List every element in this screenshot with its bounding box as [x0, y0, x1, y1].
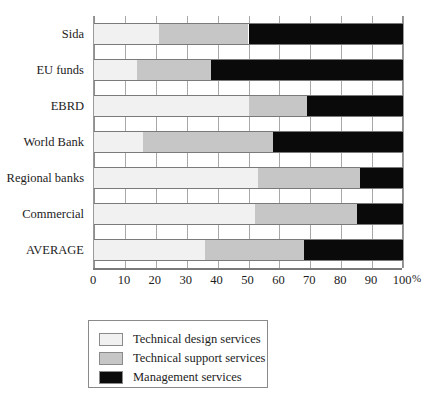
y-axis-label: World Bank [0, 136, 84, 149]
bar-segment [249, 96, 308, 116]
bar-row [94, 203, 403, 225]
legend-item: Management services [99, 368, 242, 386]
chart-plot-area: SidaEU fundsEBRDWorld BankRegional banks… [0, 0, 438, 305]
bar-segment [94, 60, 137, 80]
legend-item: Technical support services [99, 349, 265, 367]
bar-segment [94, 240, 205, 260]
y-axis-label: EBRD [0, 100, 84, 113]
bar-row [94, 167, 403, 189]
bar-segment [273, 132, 403, 152]
bar-row [94, 239, 403, 261]
bar-segment [211, 60, 403, 80]
bar-segment [304, 240, 403, 260]
legend-label: Technical design services [133, 333, 261, 346]
chart-legend: Technical design servicesTechnical suppo… [88, 320, 268, 388]
bar-segment [94, 168, 258, 188]
bar-segment [360, 168, 403, 188]
bar-segment [94, 96, 249, 116]
bar-segment [307, 96, 403, 116]
bar-segment [249, 24, 404, 44]
y-axis-label: AVERAGE [0, 244, 84, 257]
legend-item: Technical design services [99, 330, 261, 348]
y-axis-label: EU funds [0, 64, 84, 77]
bar-row [94, 59, 403, 81]
bar-segment [205, 240, 304, 260]
legend-label: Management services [133, 371, 242, 384]
legend-label: Technical support services [133, 352, 265, 365]
bar-segment [94, 132, 143, 152]
bar-segment [255, 204, 357, 224]
bar-segment [357, 204, 403, 224]
bar-segment [137, 60, 211, 80]
legend-swatch [99, 371, 123, 384]
bar-row [94, 23, 403, 45]
stacked-bar-chart-figure: SidaEU fundsEBRDWorld BankRegional banks… [0, 0, 438, 409]
bar-series-container [94, 16, 403, 268]
plot-frame [93, 16, 404, 268]
legend-swatch [99, 333, 123, 346]
x-axis-line [93, 268, 402, 270]
bar-segment [143, 132, 273, 152]
y-axis-label: Regional banks [0, 172, 84, 185]
bar-segment [159, 24, 249, 44]
y-axis-label: Commercial [0, 208, 84, 221]
bar-segment [94, 24, 159, 44]
legend-swatch [99, 352, 123, 365]
x-axis-unit-label: % [412, 271, 421, 285]
bar-row [94, 131, 403, 153]
bar-segment [258, 168, 360, 188]
y-axis-label: Sida [0, 28, 84, 41]
bar-segment [94, 204, 255, 224]
x-axis-tick-labels: 0102030405060708090100 [0, 272, 438, 294]
y-axis-category-labels: SidaEU fundsEBRDWorld BankRegional banks… [0, 16, 88, 268]
bar-row [94, 95, 403, 117]
